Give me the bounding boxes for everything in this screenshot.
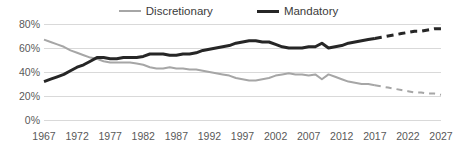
- x-tick-label-1977: 1977: [98, 130, 121, 142]
- x-tick-label-2007: 2007: [297, 130, 320, 142]
- x-tick-label-2017: 2017: [363, 130, 386, 142]
- x-tick-label-1997: 1997: [231, 130, 254, 142]
- x-tick-label-1982: 1982: [132, 130, 155, 142]
- x-tick-label-1972: 1972: [65, 130, 88, 142]
- chart-container: Discretionary Mandatory 0%20%40%60%80% 1…: [0, 0, 457, 150]
- x-tick-label-1992: 1992: [198, 130, 221, 142]
- x-tick-label-2027: 2027: [429, 130, 452, 142]
- x-tick-label-2012: 2012: [330, 130, 353, 142]
- x-tick-label-2022: 2022: [396, 130, 419, 142]
- x-axis: 1967197219771982198719921997200220072012…: [0, 0, 457, 150]
- x-tick-label-1967: 1967: [32, 130, 55, 142]
- x-tick-label-2002: 2002: [264, 130, 287, 142]
- x-tick-label-1987: 1987: [165, 130, 188, 142]
